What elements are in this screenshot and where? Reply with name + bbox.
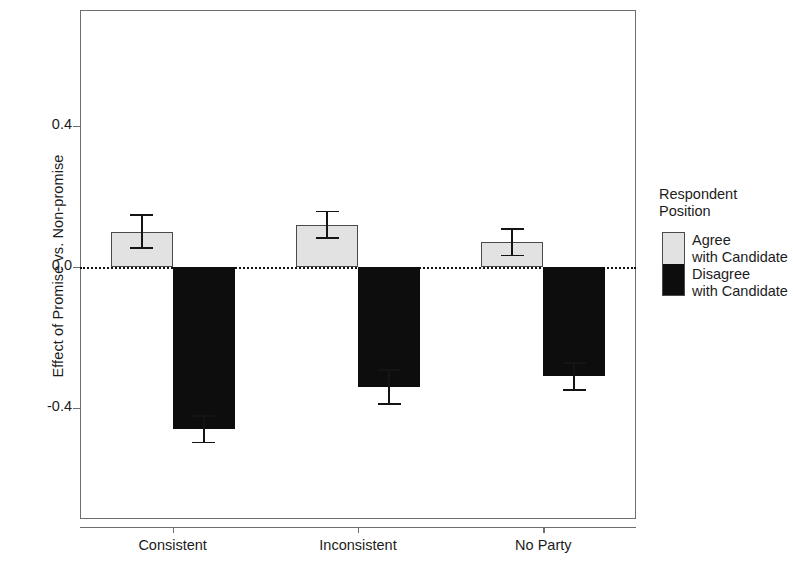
error-bar-stem	[573, 362, 575, 390]
error-bar-stem	[141, 214, 143, 249]
legend: Respondent Position Agree with Candidate…	[659, 186, 793, 224]
error-bar-cap-lower	[501, 255, 524, 257]
error-bar-disagree-2	[560, 362, 588, 390]
error-bar-cap-lower	[130, 247, 153, 249]
error-bar-stem	[326, 211, 328, 239]
x-tick-label: Inconsistent	[268, 537, 448, 553]
error-bar-agree-0	[128, 214, 156, 249]
error-bar-cap-upper	[501, 228, 524, 230]
legend-swatch	[662, 232, 685, 296]
x-tick-mark	[543, 527, 544, 533]
y-tick-label: 0.4	[0, 116, 72, 132]
error-bar-cap-lower	[192, 442, 215, 444]
error-bar-cap-upper	[563, 362, 586, 364]
error-bar-cap-upper	[378, 369, 401, 371]
legend-label-disagree: Disagree with Candidate	[692, 266, 788, 299]
error-bar-stem	[388, 369, 390, 404]
y-tick-mark	[73, 126, 80, 127]
error-bar-cap-upper	[130, 214, 153, 216]
error-bar-cap-lower	[316, 237, 339, 239]
error-bar-cap-lower	[563, 389, 586, 391]
y-tick-mark	[73, 267, 80, 268]
error-bar-agree-1	[313, 211, 341, 239]
error-bar-disagree-1	[375, 369, 403, 404]
legend-swatch-agree	[663, 233, 684, 264]
error-bar-agree-2	[498, 228, 526, 256]
error-bar-disagree-0	[190, 415, 218, 443]
bar-disagree-2	[543, 267, 605, 376]
error-bar-stem	[203, 415, 205, 443]
y-tick-mark	[73, 408, 80, 409]
bar-chart-figure: Effect of Promise vs. Non-promise 0.40.0…	[0, 0, 793, 566]
y-tick-label: -0.4	[0, 398, 72, 414]
legend-swatch-disagree	[663, 264, 684, 295]
legend-label-agree: Agree with Candidate	[692, 232, 788, 265]
x-tick-mark	[173, 527, 174, 533]
error-bar-cap-upper	[192, 415, 215, 417]
x-tick-mark	[358, 527, 359, 533]
y-tick-label: 0.0	[0, 257, 72, 273]
error-bar-cap-upper	[316, 211, 339, 213]
error-bar-cap-lower	[378, 403, 401, 405]
error-bar-stem	[511, 228, 513, 256]
legend-title: Respondent Position	[659, 186, 793, 220]
x-tick-label: Consistent	[83, 537, 263, 553]
x-tick-label: No Party	[453, 537, 633, 553]
bar-disagree-0	[173, 267, 235, 429]
